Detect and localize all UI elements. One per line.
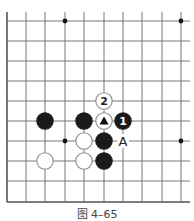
star-point-icon <box>63 19 68 24</box>
black-stone-icon <box>96 133 112 149</box>
black-stone-icon <box>76 113 92 129</box>
black-stone-icon <box>96 153 112 169</box>
black-stone-icon <box>37 113 53 129</box>
white-stone-icon <box>76 133 92 149</box>
star-point-icon <box>63 139 68 144</box>
white-stone-icon <box>76 153 92 169</box>
white-stone-icon <box>37 153 53 169</box>
move-number-2: 2 <box>100 95 108 108</box>
move-number-1: 1 <box>119 115 127 128</box>
star-point-icon <box>179 139 184 144</box>
point-label-a: A <box>119 134 128 149</box>
go-board: A12 <box>0 0 194 205</box>
star-point-icon <box>179 19 184 24</box>
figure-caption: 图 4–65 <box>0 205 194 221</box>
